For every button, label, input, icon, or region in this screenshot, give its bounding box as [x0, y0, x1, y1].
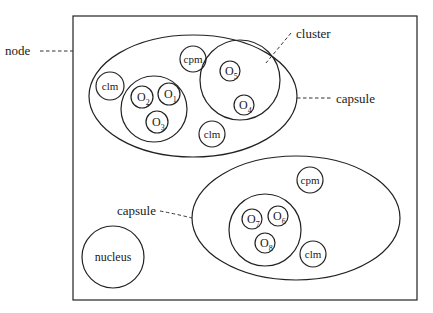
capsule-lower-ellipse: [192, 156, 400, 280]
node-label: node: [5, 43, 31, 58]
object-o3: O3: [146, 111, 168, 133]
clm-label: clm: [305, 248, 322, 260]
cluster-right: O5 O4: [200, 40, 280, 120]
svg-text:O4: O4: [239, 98, 252, 115]
cpm-label: cpm: [184, 53, 203, 65]
svg-text:O7: O7: [247, 212, 260, 229]
svg-text:O5: O5: [225, 64, 238, 81]
cluster-lower: O7 O6 O8: [229, 194, 301, 266]
object-o8: O8: [255, 233, 275, 253]
cluster-label: cluster: [296, 26, 331, 41]
object-o6: O6: [268, 206, 288, 226]
capsule-lower: cpm clm O7 O6 O8: [192, 156, 400, 280]
capsule-upper-label: capsule: [336, 91, 375, 106]
svg-text:O6: O6: [273, 209, 286, 226]
object-o2: O2: [131, 86, 153, 108]
svg-text:O8: O8: [260, 236, 273, 253]
object-o5: O5: [220, 61, 240, 81]
svg-text:O1: O1: [164, 87, 177, 104]
cluster-leader-line: [266, 33, 291, 63]
svg-text:O3: O3: [152, 115, 165, 132]
capsule-upper: clm cpm clm O2 O1 O3: [89, 35, 297, 157]
capsule-lower-label: capsule: [117, 203, 156, 218]
object-o1: O1: [158, 83, 180, 105]
cpm-label: cpm: [301, 174, 320, 186]
cluster-left: O2 O1 O3: [121, 76, 187, 142]
object-o7: O7: [242, 209, 262, 229]
object-o4: O4: [234, 95, 254, 115]
clm-label: clm: [102, 80, 119, 92]
component-clm: clm: [96, 72, 124, 100]
component-cpm: cpm: [297, 167, 323, 193]
nucleus: nucleus: [82, 226, 144, 288]
clm-label: clm: [204, 128, 221, 140]
node-structure-diagram: node clm cpm clm O2 O1: [0, 0, 433, 313]
component-clm: clm: [300, 241, 326, 267]
svg-text:O2: O2: [137, 90, 150, 107]
component-clm: clm: [199, 121, 225, 147]
capsule-lower-leader-line: [160, 211, 192, 218]
nucleus-label: nucleus: [95, 250, 132, 264]
